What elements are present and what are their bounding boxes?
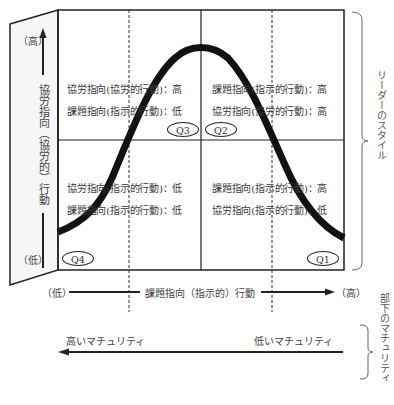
q3-line1: 協労指向(協労的行動)：高 [67, 81, 182, 96]
q1-badge: Q1 [307, 251, 339, 266]
leader-style-label: リーダーのスタイル [374, 70, 386, 200]
left-axis-panel [10, 10, 58, 285]
q1-line1: 課題指向(指示的行動)：高 [212, 180, 327, 195]
q2-badge: Q2 [205, 122, 237, 137]
diagram-canvas [0, 0, 394, 405]
q3-line2: 課題指向(指示的行動)：低 [67, 103, 182, 118]
right-arrow-icon [325, 289, 335, 296]
bottom-axis-label: 課題指向（指示的）行動 [145, 285, 255, 300]
left-axis-low: （低） [18, 252, 48, 267]
bottom-axis-low: （低） [42, 285, 72, 300]
maturity-low: 低いマチュリティ [254, 333, 333, 348]
q4-line2: 課題指向(指示的行動)：低 [67, 202, 182, 217]
leader-style-brace [352, 12, 368, 270]
q2-line1: 課題指向(指示的行動)：高 [212, 81, 327, 96]
q4-badge: Q4 [62, 251, 94, 266]
left-arrow-icon [58, 349, 69, 356]
q4-line1: 協労指向(指示的行動)：低 [67, 180, 182, 195]
left-axis-high: （高） [18, 33, 48, 48]
q3-badge: Q3 [167, 122, 199, 137]
maturity-high: 高いマチュリティ [66, 333, 145, 348]
maturity-brace-label: 部下のマチュリティ [378, 293, 389, 405]
bottom-axis-high: （高） [336, 285, 366, 300]
q1-line2: 協労指向(指示的行動)：低 [212, 202, 327, 217]
left-axis-label: 協労指向（協労的）行動 [37, 84, 49, 214]
maturity-brace [360, 325, 373, 379]
q2-line2: 協労指向(協労的行動)：高 [212, 103, 327, 118]
